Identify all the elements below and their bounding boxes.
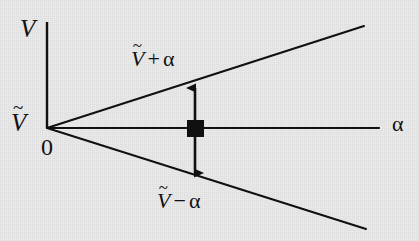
upper-alpha: α — [163, 46, 175, 71]
upper-bound-label: ~ V +α — [131, 48, 174, 70]
origin-label: 0 — [41, 135, 53, 159]
x-axis-label: α — [392, 113, 404, 135]
upper-bound-line — [47, 26, 364, 128]
lower-operator: − — [170, 188, 188, 213]
origin-value-label: ~ V — [11, 110, 26, 135]
center-square-marker — [187, 120, 204, 137]
diagram-vector-layer — [0, 0, 419, 241]
tilde-accent: ~ — [13, 98, 23, 117]
lower-bound-label: ~ V −α — [157, 190, 200, 212]
lower-v-tilde-glyph: ~ V — [157, 190, 170, 212]
figure-canvas: V ~ V 0 α ~ V +α ~ V −α — [0, 0, 419, 241]
upper-operator: + — [144, 46, 162, 71]
tilde-accent: ~ — [159, 179, 168, 196]
tilde-accent: ~ — [133, 37, 142, 54]
y-axis-label: V — [20, 16, 35, 41]
lower-bound-line — [47, 128, 366, 229]
v-tilde-glyph: ~ V — [11, 110, 26, 135]
lower-alpha: α — [189, 188, 201, 213]
upper-v-tilde-glyph: ~ V — [131, 48, 144, 70]
